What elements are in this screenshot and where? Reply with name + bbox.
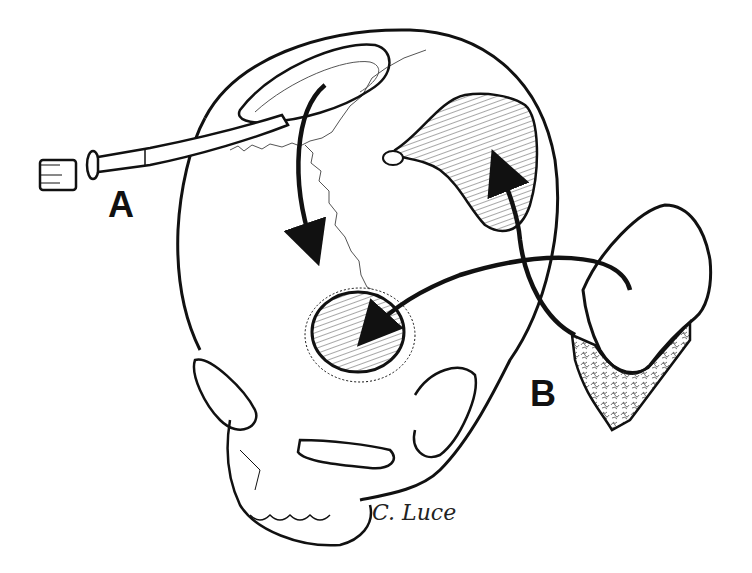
- illustration-canvas: A B C. Luce: [0, 0, 752, 573]
- label-a: A: [108, 187, 134, 223]
- skull-illustration: [0, 0, 752, 573]
- artist-signature: C. Luce: [372, 500, 456, 525]
- harvest-site-a: [239, 44, 389, 122]
- arrow-a-to-orbit: [298, 85, 325, 245]
- label-b: B: [530, 376, 556, 412]
- orbit-graft-site: [305, 288, 415, 382]
- cranial-sutures: [230, 50, 426, 291]
- osteotome-instrument: [40, 115, 288, 190]
- bone-graft-b: [572, 205, 711, 430]
